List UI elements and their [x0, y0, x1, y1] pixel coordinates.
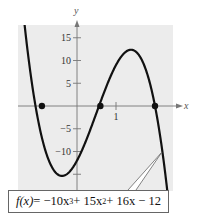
equation-part: + 15x: [73, 194, 102, 209]
zero-point: [152, 103, 158, 109]
equation-part: = −10x: [33, 194, 69, 209]
zero-point: [97, 103, 103, 109]
y-tick-label: −10: [55, 146, 71, 157]
y-tick-label: 15: [61, 32, 71, 43]
y-axis-label: y: [73, 5, 79, 16]
y-tick-label: −5: [60, 123, 71, 134]
y-tick-label: 5: [66, 78, 71, 89]
zero-point: [39, 103, 45, 109]
equation-fx: f(x): [16, 194, 33, 209]
y-tick-label: 10: [61, 55, 71, 66]
equation-part: + 16x − 12: [106, 194, 161, 209]
x-axis-arrow-icon: [176, 104, 183, 109]
function-graph: x y 15105−5−101: [0, 0, 200, 218]
x-tick-label: 1: [114, 111, 119, 122]
y-axis-arrow-icon: [75, 20, 80, 27]
equation-label: f(x) = −10x3 + 15x2 + 16x − 12: [8, 190, 169, 213]
x-axis-label: x: [183, 100, 189, 111]
